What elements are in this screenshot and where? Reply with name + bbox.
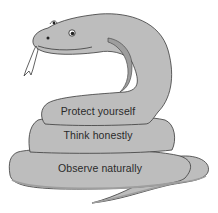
- nostril: [47, 37, 50, 40]
- forked-tongue: [24, 46, 38, 76]
- coil-label-bottom: Observe naturally: [58, 162, 142, 174]
- coil-label-top: Protect yourself: [61, 105, 136, 117]
- coil-label-middle: Think honestly: [63, 129, 132, 141]
